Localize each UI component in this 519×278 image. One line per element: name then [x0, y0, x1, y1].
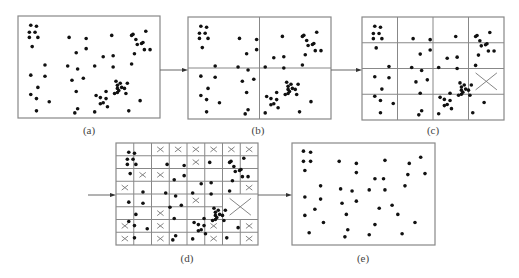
data-point: [191, 191, 195, 195]
data-point: [380, 87, 384, 91]
data-point: [138, 99, 142, 103]
data-point: [236, 226, 240, 230]
data-point: [201, 46, 205, 50]
data-point: [437, 112, 441, 116]
data-point: [276, 106, 280, 110]
data-point: [241, 175, 245, 179]
data-point: [455, 67, 459, 71]
data-point: [143, 48, 147, 52]
data-point: [418, 91, 422, 95]
data-point: [208, 161, 212, 165]
data-point: [229, 160, 233, 164]
data-point: [350, 189, 354, 193]
data-point: [387, 65, 391, 69]
data-point: [309, 150, 313, 154]
data-point: [221, 214, 225, 218]
data-point: [84, 47, 88, 51]
data-point: [309, 160, 313, 164]
data-point: [198, 37, 202, 41]
data-point: [471, 111, 475, 115]
data-point: [29, 93, 33, 97]
data-point: [301, 63, 305, 67]
data-point: [377, 206, 381, 210]
data-point: [296, 83, 300, 87]
data-point: [33, 31, 37, 35]
data-point: [306, 44, 310, 48]
data-point: [205, 25, 209, 29]
data-point: [413, 221, 417, 225]
data-point: [345, 213, 349, 217]
data-point: [406, 173, 410, 177]
data-point: [224, 209, 228, 213]
data-point: [374, 46, 378, 50]
data-point: [74, 90, 78, 94]
spatial-subdivision-diagram: [0, 0, 519, 278]
data-point: [295, 93, 299, 97]
data-point: [130, 62, 134, 66]
data-point: [202, 224, 206, 228]
data-point: [231, 179, 235, 183]
data-point: [182, 174, 186, 178]
data-point: [174, 194, 178, 198]
data-point: [134, 213, 138, 217]
data-point: [209, 192, 213, 196]
data-point: [275, 98, 279, 102]
data-point: [265, 95, 269, 99]
data-point: [211, 219, 215, 223]
data-point: [206, 37, 210, 41]
data-point: [307, 231, 311, 235]
data-point: [182, 164, 186, 168]
data-point: [67, 36, 71, 40]
panel-label: (d): [181, 252, 194, 264]
panel-label: (b): [252, 124, 265, 136]
data-point: [126, 158, 130, 162]
data-point: [241, 79, 245, 83]
data-point: [172, 217, 176, 221]
data-point: [319, 49, 323, 53]
data-point: [303, 169, 307, 173]
data-point: [309, 100, 313, 104]
data-point: [192, 221, 196, 225]
data-point: [114, 79, 118, 83]
data-point: [222, 219, 226, 223]
data-point: [443, 98, 447, 102]
data-point: [470, 83, 474, 87]
data-point: [172, 178, 176, 182]
data-point: [373, 223, 377, 227]
data-point: [128, 172, 132, 176]
data-point: [477, 53, 481, 57]
data-point: [377, 32, 381, 36]
data-point: [379, 111, 383, 115]
data-point: [340, 201, 344, 205]
data-point: [450, 107, 454, 111]
data-point: [205, 98, 209, 102]
data-point: [133, 224, 137, 228]
data-point: [141, 41, 145, 45]
data-point: [407, 162, 411, 166]
data-point: [275, 91, 279, 95]
data-point: [218, 101, 222, 105]
data-point: [203, 32, 207, 36]
data-point: [303, 214, 307, 218]
data-point: [225, 236, 229, 240]
data-point: [246, 175, 250, 179]
data-point: [379, 99, 383, 103]
data-point: [76, 107, 80, 111]
arrowhead-icon: [182, 68, 188, 72]
data-point: [467, 88, 471, 92]
data-point: [180, 203, 184, 207]
data-point: [113, 92, 117, 96]
data-point: [94, 94, 98, 98]
data-point: [475, 34, 479, 38]
data-point: [454, 35, 458, 39]
data-point: [293, 88, 297, 92]
data-point: [410, 66, 414, 70]
data-point: [70, 78, 74, 82]
data-point: [448, 91, 452, 95]
data-point: [355, 199, 359, 203]
data-point: [382, 177, 386, 181]
data-point: [373, 75, 377, 79]
data-point: [373, 177, 377, 181]
data-point: [303, 53, 307, 57]
data-point: [135, 43, 139, 47]
